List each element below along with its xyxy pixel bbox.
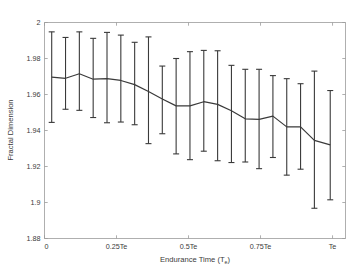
error-bar [104,32,110,122]
y-tick-label: 2 [37,18,41,27]
y-tick-label: 1.92 [27,162,41,171]
error-bar-chart: 1.881.91.921.941.961.982 00.25Te0.5Te0.7… [0,0,364,272]
x-axis-title: Endurance Time (Te) [160,255,230,265]
x-axis-title-close: ) [227,255,230,264]
x-tick-label: 0.5Te [180,242,198,251]
y-tick-label: 1.98 [27,54,41,63]
x-tick-label: 0.25Te [106,242,128,251]
error-bar [242,69,248,162]
y-tick-label: 1.94 [27,126,41,135]
x-tick-label: Te [329,242,337,251]
error-bar [76,32,82,110]
y-tick-label: 1.96 [27,90,41,99]
x-tick-label: 0 [45,242,49,251]
y-axis-title: Fractal Dimension [6,99,15,160]
error-bar [118,35,124,122]
y-tick-labels: 1.881.91.921.941.961.982 [27,18,41,243]
error-bar [63,37,69,109]
x-axis-ticks [45,23,333,239]
error-bars-group [49,32,334,208]
x-axis-title-main: Endurance Time (T [160,255,225,264]
x-tick-label: 0.75Te [250,242,272,251]
x-tick-labels: 00.25Te0.5Te0.75TeTe [45,242,337,251]
error-bar [228,65,234,162]
chart-figure: 1.881.91.921.941.961.982 00.25Te0.5Te0.7… [0,0,364,272]
error-bar [201,50,207,151]
y-tick-label: 1.9 [31,198,41,207]
y-tick-label: 1.88 [27,234,41,243]
error-bar [327,91,333,200]
